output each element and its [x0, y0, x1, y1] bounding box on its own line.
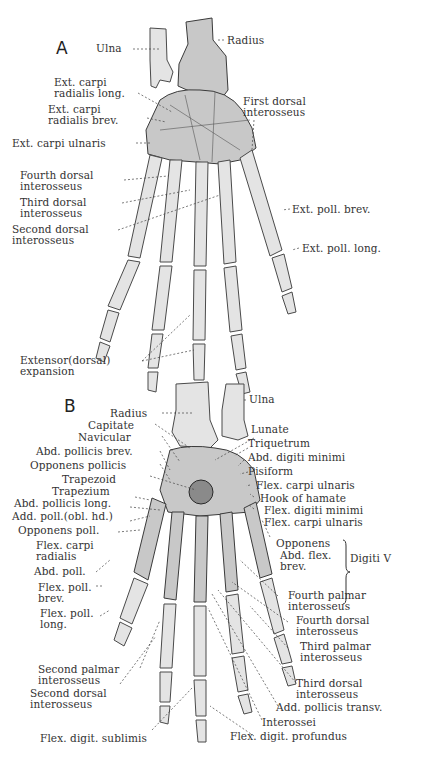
- label-a-fourth-dorsal-interosseus: Fourth dorsal interosseus: [20, 170, 94, 192]
- label-b-interossei: Interossei: [262, 717, 316, 728]
- hand-anatomy-figure: A Ulna Radius Ext. carpi radialis long. …: [0, 0, 425, 757]
- panel-a-letter: A: [56, 38, 68, 58]
- label-b-abd-digiti-minimi: Abd. digiti minimi: [248, 452, 345, 463]
- label-b-trapezium: Trapezium: [52, 486, 110, 497]
- label-b-radius: Radius: [110, 408, 147, 419]
- label-b-flex-digiti-minimi: Flex. digiti minimi: [264, 505, 363, 516]
- label-b-fourth-palmar-interosseus: Fourth palmar interosseus: [288, 590, 366, 612]
- panel-b-letter: B: [64, 396, 76, 416]
- label-a-ulna: Ulna: [96, 43, 122, 54]
- label-b-flex-poll-long: Flex. poll. long.: [40, 608, 94, 630]
- label-b-opponens-pollicis: Opponens pollicis: [30, 460, 126, 471]
- label-b-navicular: Navicular: [78, 432, 131, 443]
- label-b-lunate: Lunate: [251, 424, 289, 435]
- label-b-opponens-digiti-v: Opponens: [276, 538, 330, 549]
- label-a-ext-poll-long: Ext. poll. long.: [302, 243, 381, 254]
- label-a-ext-carpi-radialis-brev: Ext. carpi radialis brev.: [48, 104, 118, 126]
- label-b-flex-carpi-ulnaris-1: Flex. carpi ulnaris: [256, 480, 355, 491]
- label-a-ext-carpi-ulnaris: Ext. carpi ulnaris: [12, 138, 106, 149]
- label-b-third-dorsal-interosseus: Third dorsal interosseus: [296, 678, 362, 700]
- panel-a-bones: [96, 18, 296, 406]
- label-b-flex-poll-brev: Flex. poll. brev.: [38, 582, 92, 604]
- label-b-add-pollicis-transv: Add. pollicis transv.: [276, 702, 383, 713]
- label-a-ext-poll-brev: Ext. poll. brev.: [292, 204, 371, 215]
- label-a-extensor-expansion: Extensor(dorsal) expansion: [20, 355, 110, 377]
- label-b-third-palmar-interosseus: Third palmar interosseus: [300, 641, 371, 663]
- label-b-abd-pollicis-long: Abd. pollicis long.: [14, 498, 111, 509]
- label-a-second-dorsal-interosseus: Second dorsal interosseus: [12, 224, 89, 246]
- label-a-ext-carpi-radialis-long: Ext. carpi radialis long.: [54, 77, 125, 99]
- label-a-radius: Radius: [227, 35, 264, 46]
- label-a-first-dorsal-interosseus: First dorsal interosseus: [243, 96, 306, 118]
- label-a-third-dorsal-interosseus: Third dorsal interosseus: [20, 197, 86, 219]
- label-b-triquetrum: Triquetrum: [248, 438, 310, 449]
- label-b-ulna: Ulna: [249, 394, 275, 405]
- label-b-second-palmar-interosseus: Second palmar interosseus: [38, 664, 119, 686]
- label-b-opponens-poll: Opponens poll.: [18, 525, 99, 536]
- label-b-flex-digit-sublimis: Flex. digit. sublimis: [40, 733, 147, 744]
- label-b-fourth-dorsal-interosseus: Fourth dorsal interosseus: [296, 615, 370, 637]
- label-b-capitate: Capitate: [88, 420, 134, 431]
- panel-b-bones: [114, 382, 296, 742]
- label-b-abd-pollicis-brev: Abd. pollicis brev.: [36, 446, 133, 457]
- label-b-flex-carpi-radialis: Flex. carpi radialis: [36, 540, 94, 562]
- label-b-abd-poll: Abd. poll.: [34, 566, 86, 577]
- label-b-pisiform: Pisiform: [248, 466, 293, 477]
- label-b-add-poll-obl-hd: Add. poll.(obl. hd.): [12, 511, 113, 522]
- label-b-trapezoid: Trapezoid: [62, 474, 116, 485]
- label-b-flex-carpi-ulnaris-2: Flex. carpi ulnaris: [264, 517, 363, 528]
- label-b-abd-flex-brev-digiti-v: Abd. flex. brev.: [280, 550, 331, 572]
- label-b-second-dorsal-interosseus: Second dorsal interosseus: [30, 688, 107, 710]
- label-b-hook-of-hamate: Hook of hamate: [260, 493, 346, 504]
- label-b-flex-digit-profundus: Flex. digit. profundus: [230, 731, 347, 742]
- label-b-digiti-v: Digiti V: [350, 553, 391, 564]
